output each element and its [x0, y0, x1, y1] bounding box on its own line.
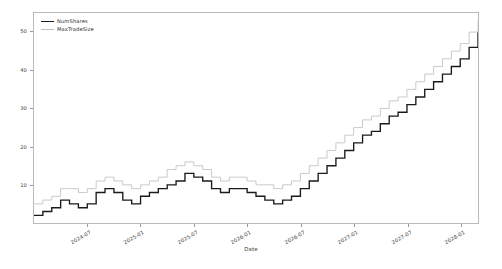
y-tick-label: 30: [7, 105, 27, 111]
series-line-numshares: [34, 32, 478, 215]
legend-entry: NumShares: [41, 18, 94, 24]
x-tick-label: 2027-01: [334, 229, 360, 247]
x-tick-label: 2024-07: [66, 229, 92, 247]
x-tick-label: 2027-07: [387, 229, 413, 247]
x-tick-label: 2026-07: [280, 229, 306, 247]
plot-svg: [34, 13, 478, 223]
y-tick-label: 20: [7, 144, 27, 150]
y-tick-mark: [30, 185, 33, 186]
x-tick-label: 2026-01: [227, 229, 253, 247]
series-layer: [34, 21, 478, 216]
y-tick-label: 10: [7, 182, 27, 188]
x-axis-title: Date: [0, 246, 502, 252]
legend-label: NumShares: [57, 18, 88, 24]
legend-label: MaxTradeSize: [57, 26, 94, 32]
chart-legend: NumSharesMaxTradeSize: [39, 16, 98, 34]
y-tick-mark: [30, 147, 33, 148]
x-tick-mark: [87, 224, 88, 227]
x-tick-label: 2025-01: [120, 229, 146, 247]
y-tick-mark: [30, 31, 33, 32]
y-tick-mark: [30, 108, 33, 109]
x-tick-mark: [461, 224, 462, 227]
x-tick-label: 2028-01: [441, 229, 467, 247]
x-tick-mark: [194, 224, 195, 227]
plot-area: [33, 12, 479, 224]
chart-figure: 1020304050 2024-072025-012025-072026-012…: [0, 0, 502, 269]
x-tick-label: 2025-07: [173, 229, 199, 247]
y-tick-mark: [30, 70, 33, 71]
x-tick-mark: [301, 224, 302, 227]
legend-swatch-icon: [41, 29, 54, 30]
legend-swatch-icon: [41, 21, 54, 22]
y-tick-label: 40: [7, 67, 27, 73]
x-tick-mark: [408, 224, 409, 227]
series-line-maxtradesize: [34, 21, 478, 204]
x-tick-mark: [247, 224, 248, 227]
legend-entry: MaxTradeSize: [41, 26, 94, 32]
y-tick-label: 50: [7, 28, 27, 34]
x-tick-mark: [140, 224, 141, 227]
x-tick-mark: [354, 224, 355, 227]
